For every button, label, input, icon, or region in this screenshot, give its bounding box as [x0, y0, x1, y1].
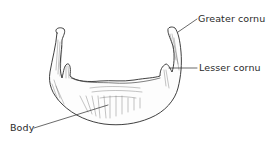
- greater-cornu-label: Greater cornu: [198, 14, 265, 24]
- hyoid-diagram: Greater cornu Lesser cornu Body: [0, 0, 276, 143]
- body-label: Body: [10, 123, 34, 133]
- bone-outline: [50, 27, 182, 125]
- greater-cornu-leader: [178, 19, 197, 32]
- lesser-cornu-label: Lesser cornu: [199, 63, 261, 73]
